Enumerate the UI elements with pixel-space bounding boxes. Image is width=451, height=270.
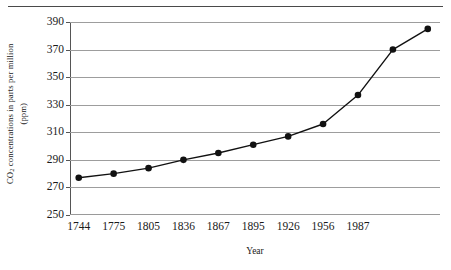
y-axis-tick-label: 250 bbox=[30, 209, 64, 221]
y-axis-tick-label: 370 bbox=[30, 44, 64, 56]
data-point-marker bbox=[355, 92, 362, 99]
data-point-marker bbox=[215, 150, 222, 157]
data-point-marker bbox=[424, 26, 431, 33]
plot-area: 250270290310330350370390 174417751805183… bbox=[70, 22, 440, 215]
y-axis-tick-label: 350 bbox=[30, 71, 64, 83]
y-axis-title-subscript: 2 bbox=[8, 169, 15, 172]
y-axis-tick-label: 270 bbox=[30, 181, 64, 193]
y-axis-title: CO2 concentrations in parts per million … bbox=[0, 0, 32, 228]
data-point-marker bbox=[390, 46, 397, 53]
y-axis-tick-label: 330 bbox=[30, 99, 64, 111]
data-point-marker bbox=[250, 141, 257, 148]
figure-container: CO2 concentrations in parts per million … bbox=[0, 0, 451, 270]
y-axis-tick-label: 290 bbox=[30, 154, 64, 166]
data-point-marker bbox=[320, 121, 327, 128]
series-markers bbox=[75, 26, 431, 181]
y-axis-tick-label: 310 bbox=[30, 126, 64, 138]
y-axis-tick-label: 390 bbox=[30, 16, 64, 28]
data-point-marker bbox=[110, 170, 117, 177]
x-axis-title: Year bbox=[70, 246, 440, 256]
x-axis-tick-label: 1987 bbox=[336, 220, 380, 232]
y-axis-title-line2: (ppm) bbox=[17, 103, 27, 125]
series-line bbox=[79, 29, 428, 178]
y-axis-title-suffix: concentrations in parts per million bbox=[4, 44, 14, 169]
data-point-marker bbox=[180, 157, 187, 164]
y-axis-tickmark bbox=[66, 215, 70, 216]
top-divider-rule bbox=[8, 6, 443, 7]
data-series-layer bbox=[70, 22, 440, 215]
data-point-marker bbox=[75, 174, 82, 181]
data-point-marker bbox=[145, 165, 152, 172]
y-axis-title-prefix: CO bbox=[4, 172, 14, 184]
data-point-marker bbox=[285, 133, 292, 140]
y-axis-title-line1: CO2 concentrations in parts per million bbox=[4, 44, 14, 185]
